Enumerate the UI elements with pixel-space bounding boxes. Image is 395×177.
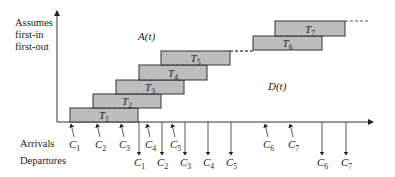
- assumption-label-line3: first-out: [15, 41, 49, 52]
- arrival-arrow-c2: [97, 124, 100, 137]
- arrival-arrow-c1: [71, 124, 74, 137]
- departure-curve-label: D(t): [267, 80, 287, 93]
- assumption-label-line1: Assumes: [15, 17, 53, 28]
- arrival-label-c7: C7: [288, 138, 299, 153]
- arrival-label-c1: C1: [69, 138, 80, 153]
- arrival-arrow-c6: [265, 124, 268, 137]
- departure-label-c4: C4: [203, 156, 214, 171]
- arrival-arrow-c5: [172, 124, 175, 137]
- departure-label-c7: C7: [341, 156, 352, 171]
- event-arrows: C1C2C3C4C5C6C7C1C2C3C4C5C6C7: [69, 122, 352, 171]
- arrival-curve-label: A(t): [137, 30, 155, 43]
- departure-label-c6: C6: [317, 156, 328, 171]
- fifo-queue-diagram: T1T2T3T4T5T6T7 C1C2C3C4C5C6C7C1C2C3C4C5C…: [0, 0, 395, 177]
- arrival-label-c4: C4: [145, 138, 156, 153]
- arrival-label-c2: C2: [95, 138, 106, 153]
- departure-label-c5: C5: [226, 156, 237, 171]
- arrival-label-c3: C3: [119, 138, 130, 153]
- arrivals-row-label: Arrivals: [20, 138, 54, 149]
- departure-label-c1: C1: [134, 156, 145, 171]
- assumption-label-line2: first-in: [15, 29, 44, 40]
- departures-row-label: Departures: [20, 155, 66, 166]
- service-time-boxes: T1T2T3T4T5T6T7: [70, 21, 345, 124]
- arrival-label-c6: C6: [263, 138, 274, 153]
- arrival-arrow-c3: [121, 124, 124, 137]
- departure-label-c3: C3: [180, 156, 191, 171]
- arrival-arrow-c4: [147, 124, 150, 137]
- arrival-arrow-c7: [290, 124, 293, 137]
- arrival-label-c5: C5: [170, 138, 181, 153]
- departure-label-c2: C2: [157, 156, 168, 171]
